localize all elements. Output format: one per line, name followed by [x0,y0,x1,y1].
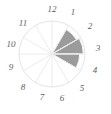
hour-label-7: 7 [40,93,45,102]
hour-label-5: 5 [80,84,85,93]
hour-label-12: 12 [48,5,57,14]
hour-label-9: 9 [9,63,14,72]
rose-diagram-figure: 121234567891011 [0,0,112,114]
hour-label-6: 6 [60,94,65,103]
hour-label-3: 3 [96,44,101,53]
hour-label-10: 10 [7,40,16,49]
hour-label-8: 8 [21,83,26,92]
frame-border-right [111,0,112,114]
hour-label-4: 4 [93,66,98,75]
hour-label-2: 2 [88,22,93,31]
hour-label-1: 1 [71,8,76,17]
polar-chart-canvas [0,0,112,114]
hour-label-11: 11 [19,19,27,28]
